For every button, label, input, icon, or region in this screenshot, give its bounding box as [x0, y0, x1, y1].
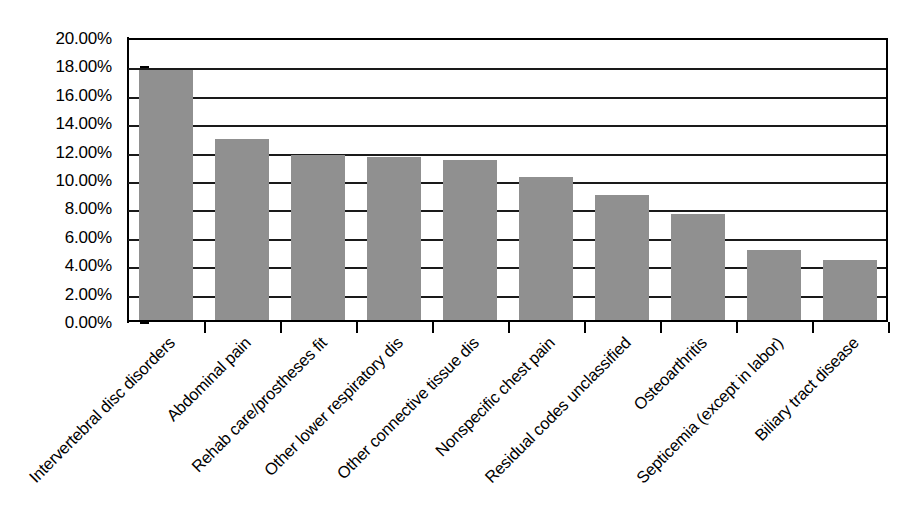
plot-area — [128, 38, 888, 322]
x-axis-tick-mark — [204, 322, 206, 333]
bar — [367, 157, 422, 320]
x-axis-tick-mark — [736, 322, 738, 333]
bar — [671, 214, 726, 320]
bar — [291, 155, 346, 320]
x-axis-tick-mark — [508, 322, 510, 333]
x-axis-tick-mark — [356, 322, 358, 333]
bar — [139, 70, 194, 320]
x-axis-labels: Intervertebral disc disordersAbdominal p… — [0, 334, 924, 531]
x-axis-tick-mark — [812, 322, 814, 333]
x-axis-ticks — [128, 322, 890, 334]
y-axis-tick-label: 10.00% — [56, 172, 112, 189]
y-axis-tick-label: 8.00% — [65, 200, 112, 217]
y-axis-tick-label: 6.00% — [65, 228, 112, 245]
bars-layer — [128, 40, 886, 320]
y-axis-tick-label: 14.00% — [56, 115, 112, 132]
bar — [595, 195, 650, 320]
y-axis-tick-label: 20.00% — [56, 30, 112, 47]
y-axis-tick-label: 18.00% — [56, 58, 112, 75]
x-axis-tick-mark — [660, 322, 662, 333]
x-axis-tick-mark — [432, 322, 434, 333]
bar — [747, 250, 802, 320]
bar — [823, 260, 878, 320]
bar — [443, 160, 498, 320]
bar-chart: 0.00%2.00%4.00%6.00%8.00%10.00%12.00%14.… — [0, 0, 924, 531]
bar — [215, 139, 270, 320]
y-axis: 0.00%2.00%4.00%6.00%8.00%10.00%12.00%14.… — [20, 28, 118, 332]
y-axis-tick-label: 4.00% — [65, 257, 112, 274]
x-axis-tick-mark — [888, 322, 890, 333]
y-axis-tick-label: 16.00% — [56, 86, 112, 103]
y-axis-tick-label: 12.00% — [56, 143, 112, 160]
x-axis-tick-mark — [280, 322, 282, 333]
x-axis-tick-mark — [584, 322, 586, 333]
y-axis-tick-label: 2.00% — [65, 285, 112, 302]
y-axis-tick-label: 0.00% — [65, 314, 112, 331]
bar — [519, 177, 574, 320]
